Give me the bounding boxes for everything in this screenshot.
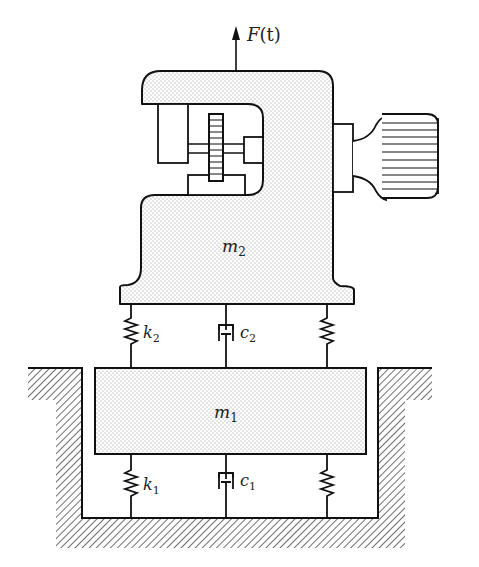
force-label: F(t) [246,24,281,45]
upper-damper: c2 [219,304,256,368]
damper-lower-label: c1 [240,471,256,493]
upper-spring-right [321,304,333,368]
arrow-up-icon [232,26,240,40]
foundation-block: m1 [95,368,366,454]
motor [333,114,438,200]
gear-assembly [158,104,263,195]
spring-lower-label: k1 [143,475,160,497]
lower-spring-left: k1 [125,454,160,518]
damper-upper-label: c2 [240,323,256,345]
force-arrow: F(t) [232,24,281,71]
vibration-diagram: m1 k1 c1 k2 c2 m2 [0,0,479,567]
spring-upper-label: k2 [143,323,160,345]
lower-damper: c1 [219,454,256,518]
gear-icon [209,114,223,181]
upper-spring-left: k2 [125,304,160,368]
lower-spring-right [321,454,333,518]
